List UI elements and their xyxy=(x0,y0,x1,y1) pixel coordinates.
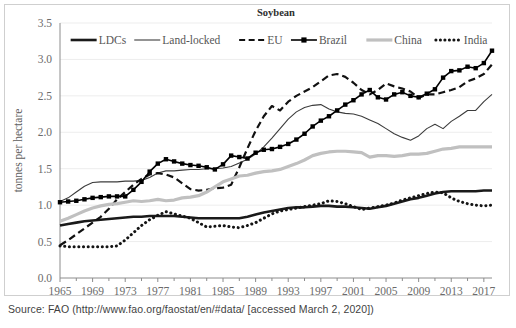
series-marker-brazil xyxy=(115,194,119,198)
x-tick-label: 1997 xyxy=(309,285,332,297)
series-marker-brazil xyxy=(180,161,184,165)
series-marker-brazil xyxy=(335,108,339,112)
series-marker-brazil xyxy=(368,88,372,92)
series-marker-brazil xyxy=(376,95,380,99)
x-tick-label: 2009 xyxy=(407,285,430,297)
series-marker-brazil xyxy=(384,97,388,101)
soybean-yield-line-chart: 0.00.51.01.52.02.53.03.51965196919731977… xyxy=(0,0,516,300)
y-tick-label: 0.5 xyxy=(38,236,53,248)
series-marker-brazil xyxy=(310,124,314,128)
x-tick-label: 1981 xyxy=(179,285,202,297)
series-marker-brazil xyxy=(408,94,412,98)
legend-label-brazil: Brazil xyxy=(319,34,347,46)
series-marker-brazil xyxy=(343,102,347,106)
series-marker-brazil xyxy=(82,197,86,201)
x-tick-label: 1977 xyxy=(146,285,169,297)
x-tick-label: 1969 xyxy=(81,285,104,297)
x-tick-label: 2013 xyxy=(440,285,463,297)
legend-label-ldcs: LDCs xyxy=(99,34,127,46)
y-tick-label: 2.5 xyxy=(38,90,53,102)
series-marker-brazil xyxy=(327,114,331,118)
x-tick-label: 1993 xyxy=(277,285,300,297)
y-tick-label: 2.0 xyxy=(38,126,53,138)
y-tick-label: 0.0 xyxy=(38,272,53,284)
x-tick-label: 1989 xyxy=(244,285,267,297)
series-marker-brazil xyxy=(172,159,176,163)
series-marker-brazil xyxy=(123,194,127,198)
series-marker-brazil xyxy=(188,163,192,167)
series-marker-brazil xyxy=(286,142,290,146)
series-marker-brazil xyxy=(147,169,151,173)
chart-figure: 0.00.51.01.52.02.53.03.51965196919731977… xyxy=(0,0,516,328)
series-marker-brazil xyxy=(107,194,111,198)
legend-label-india: India xyxy=(464,34,488,46)
series-marker-brazil xyxy=(66,199,70,203)
series-marker-brazil xyxy=(482,61,486,65)
series-marker-brazil xyxy=(270,147,274,151)
series-marker-brazil xyxy=(449,69,453,73)
series-marker-brazil xyxy=(474,66,478,70)
series-marker-brazil xyxy=(351,98,355,102)
series-marker-brazil xyxy=(400,90,404,94)
series-marker-brazil xyxy=(302,132,306,136)
series-marker-brazil xyxy=(425,91,429,95)
y-tick-label: 1.0 xyxy=(38,199,53,211)
series-marker-brazil xyxy=(237,155,241,159)
series-marker-brazil xyxy=(221,162,225,166)
y-tick-label: 3.0 xyxy=(38,53,53,65)
legend-label-eu: EU xyxy=(267,34,283,46)
legend-marker-brazil xyxy=(301,37,306,42)
series-marker-brazil xyxy=(278,145,282,149)
y-tick-label: 1.5 xyxy=(38,163,53,175)
series-marker-brazil xyxy=(74,199,78,203)
series-marker-brazil xyxy=(196,164,200,168)
series-marker-brazil xyxy=(58,200,62,204)
series-marker-brazil xyxy=(457,68,461,72)
series-marker-brazil xyxy=(490,48,494,52)
series-marker-brazil xyxy=(441,75,445,79)
series-marker-brazil xyxy=(156,161,160,165)
x-tick-label: 1973 xyxy=(114,285,137,297)
series-marker-brazil xyxy=(416,95,420,99)
series-marker-brazil xyxy=(205,165,209,169)
series-line-india xyxy=(60,192,492,247)
series-marker-brazil xyxy=(319,118,323,122)
series-line-brazil xyxy=(60,51,492,203)
series-marker-brazil xyxy=(294,137,298,141)
series-marker-brazil xyxy=(213,167,217,171)
x-tick-label: 2005 xyxy=(375,285,398,297)
x-tick-label: 1965 xyxy=(49,285,72,297)
x-tick-label: 2017 xyxy=(472,285,495,297)
series-marker-brazil xyxy=(262,148,266,152)
legend-label-china: China xyxy=(394,34,421,46)
source-note: Source: FAO (http://www.fao.org/faostat/… xyxy=(8,303,374,315)
y-axis-title: tonnes per hectare xyxy=(12,109,25,193)
y-tick-label: 3.5 xyxy=(38,17,53,29)
series-marker-brazil xyxy=(131,188,135,192)
series-marker-brazil xyxy=(433,87,437,91)
series-marker-brazil xyxy=(245,156,249,160)
series-marker-brazil xyxy=(139,180,143,184)
series-marker-brazil xyxy=(253,150,257,154)
series-marker-brazil xyxy=(99,195,103,199)
legend-label-land-locked: Land-locked xyxy=(162,34,220,46)
series-marker-brazil xyxy=(392,92,396,96)
series-marker-brazil xyxy=(359,92,363,96)
series-marker-brazil xyxy=(229,153,233,157)
x-tick-label: 1985 xyxy=(212,285,235,297)
chart-title: Soybean xyxy=(257,7,295,18)
series-marker-brazil xyxy=(164,157,168,161)
series-marker-brazil xyxy=(465,65,469,69)
x-tick-label: 2001 xyxy=(342,285,365,297)
series-marker-brazil xyxy=(90,196,94,200)
